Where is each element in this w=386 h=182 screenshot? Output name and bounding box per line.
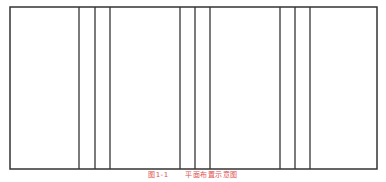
figure-number: 图1-1 [148, 171, 168, 179]
figure-title: 平面布置示意图 [185, 171, 238, 179]
figure-caption: 图1-1 平面布置示意图 [0, 171, 386, 180]
divider-lines [79, 7, 310, 169]
layout-diagram [0, 0, 386, 182]
outer-frame [10, 7, 377, 169]
